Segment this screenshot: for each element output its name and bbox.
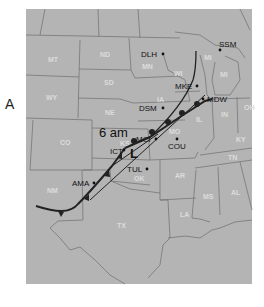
- state-label-co: CO: [60, 139, 71, 146]
- state-label-nm: NM: [47, 187, 58, 194]
- city-label-cou: COU: [168, 142, 186, 151]
- state-label-mn: MN: [142, 63, 153, 70]
- state-label-il: IL: [196, 116, 203, 123]
- state-label-wi: WI: [174, 70, 183, 77]
- city-dot-dlh: [162, 53, 165, 56]
- city-dot-mke: [196, 85, 199, 88]
- city-label-dlh: DLH: [141, 50, 157, 59]
- state-label-mt: MT: [48, 56, 59, 63]
- warm-front-bump-icon: [194, 101, 200, 107]
- city-dot-ict: [123, 149, 126, 152]
- state-label-mi: MI: [220, 71, 228, 78]
- state-label-sd: SD: [104, 79, 114, 86]
- city-label-tul: TUL: [127, 165, 143, 174]
- city-label-dsm: DSM: [139, 104, 157, 113]
- city-label-ama: AMA: [72, 179, 90, 188]
- city-dot-ssm: [219, 49, 222, 52]
- state-label-ky: KY: [236, 136, 246, 143]
- state-label-mi-upper: MI: [204, 54, 212, 61]
- city-dot-dsm: [162, 107, 165, 110]
- state-label-tx: TX: [117, 222, 126, 229]
- city-label-ict: ICT: [110, 147, 123, 156]
- state-label-tn: TN: [228, 154, 237, 161]
- city-dot-cou: [176, 138, 179, 141]
- state-label-al: AL: [231, 189, 241, 196]
- city-label-mke: MKE: [175, 82, 192, 91]
- state-label-ar: AR: [175, 172, 185, 179]
- warm-front-bump-icon: [179, 110, 185, 116]
- low-pressure-symbol: L: [130, 146, 138, 161]
- state-label-wy: WY: [46, 94, 58, 101]
- state-label-ia: IA: [157, 96, 164, 103]
- state-label-nd: ND: [100, 51, 110, 58]
- state-label-oh: OH: [244, 104, 255, 111]
- city-label-ssm: SSM: [219, 40, 237, 49]
- state-label-ms: MS: [203, 193, 214, 200]
- state-label-la: LA: [180, 211, 189, 218]
- city-label-mdw: MDW: [207, 95, 227, 104]
- city-dot-mdw: [202, 98, 205, 101]
- city-dot-tul: [146, 168, 149, 171]
- map-land: [26, 9, 252, 284]
- state-label-ok: OK: [134, 175, 145, 182]
- state-label-ne: NE: [105, 109, 115, 116]
- city-label-mci: MCI: [136, 135, 151, 144]
- state-label-mo: MO: [169, 128, 181, 135]
- state-label-in: IN: [221, 111, 228, 118]
- city-dot-mci: [155, 138, 158, 141]
- time-label: 6 am: [99, 125, 128, 140]
- city-dot-ama: [93, 182, 96, 185]
- weather-map: MT WY CO NM ND SD NE KS OK TX MN IA WI M…: [0, 0, 264, 307]
